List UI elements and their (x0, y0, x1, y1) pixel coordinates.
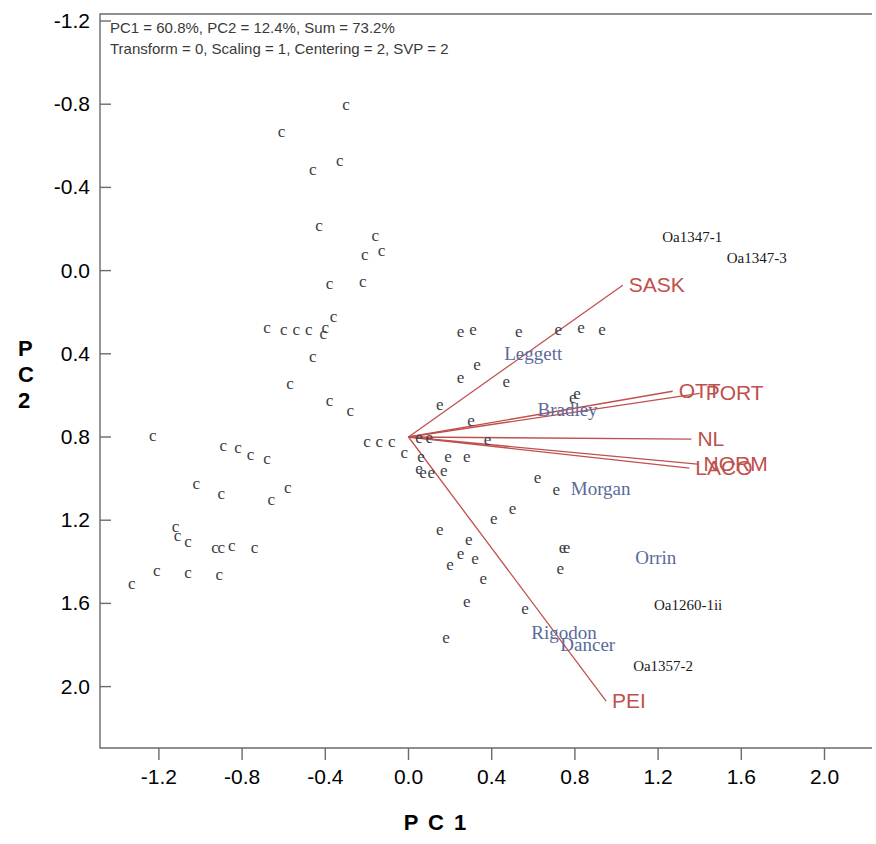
data-point-c: c (220, 436, 228, 455)
vector-label-sask: SASK (629, 273, 685, 296)
data-point-e: e (457, 322, 465, 341)
data-point-c: c (309, 347, 317, 366)
vector-label-pei: PEI (612, 689, 646, 712)
y-axis-title-char-1: C (18, 362, 36, 387)
data-point-c: c (267, 490, 275, 509)
data-point-e: e (554, 320, 562, 339)
data-point-c: c (359, 272, 367, 291)
sample-label-morgan: Morgan (571, 478, 631, 499)
data-point-e: e (480, 569, 488, 588)
y-tick-label: 2.0 (61, 675, 90, 698)
x-axis-ticks: -1.2-0.8-0.40.00.40.81.21.62.0 (141, 748, 839, 788)
data-point-e: e (484, 430, 492, 449)
data-point-c: c (388, 432, 396, 451)
accession-label-oa1357-2: Oa1357-2 (633, 658, 693, 674)
y-tick-label: 0.8 (61, 425, 90, 448)
blue-sample-labels: LeggettBradleyMorganOrrinRigodonDancer (504, 343, 677, 655)
data-point-c: c (326, 274, 334, 293)
vector-label-laco: LACO (695, 456, 752, 479)
data-point-c: c (263, 318, 271, 337)
data-point-c: c (278, 122, 286, 141)
sample-label-dancer: Dancer (560, 634, 616, 655)
data-point-c: c (174, 526, 182, 545)
loading-vector-pei (409, 437, 607, 701)
data-point-c: c (315, 216, 323, 235)
sample-label-bradley: Bradley (537, 399, 598, 420)
data-point-c: c (401, 443, 409, 462)
data-point-e: e (473, 355, 481, 374)
pca-biplot-figure: 2.01.61.20.80.40.0-0.4-0.8-1.2 -1.2-0.8-… (0, 0, 876, 844)
data-point-e: e (509, 499, 517, 518)
data-point-e: e (457, 368, 465, 387)
data-point-c: c (247, 445, 255, 464)
scatter-points: cccccccccccccccccccccccccccccccccccccccc… (128, 95, 606, 646)
data-point-e: e (598, 320, 606, 339)
data-point-c: c (263, 449, 271, 468)
variance-summary-line: PC1 = 60.8%, PC2 = 12.4%, Sum = 73.2% (110, 19, 395, 36)
data-point-c: c (346, 401, 354, 420)
x-tick-label: 1.6 (727, 765, 756, 788)
x-tick-label: -1.2 (141, 765, 177, 788)
data-point-c: c (361, 245, 369, 264)
data-point-e: e (426, 428, 434, 447)
accession-label-oa1347-1: Oa1347-1 (662, 229, 722, 245)
data-point-e: e (515, 322, 523, 341)
x-tick-label: -0.8 (224, 765, 260, 788)
plot-canvas: 2.01.61.20.80.40.0-0.4-0.8-1.2 -1.2-0.8-… (0, 0, 876, 844)
data-point-e: e (440, 461, 448, 480)
y-axis-title-char-0: P (18, 336, 35, 361)
data-point-c: c (342, 95, 350, 114)
data-point-c: c (184, 532, 192, 551)
data-point-e: e (463, 447, 471, 466)
x-axis-title: P C 1 (404, 810, 469, 835)
data-point-e: e (521, 599, 529, 618)
y-tick-label: -0.4 (54, 175, 91, 198)
data-point-e: e (471, 549, 479, 568)
data-point-e: e (534, 468, 542, 487)
data-point-c: c (251, 538, 259, 557)
x-tick-label: 0.4 (477, 765, 507, 788)
data-point-c: c (376, 432, 384, 451)
data-point-e: e (502, 372, 510, 391)
vector-labels: SASKOTTPORTNLNORMLACOPEI (612, 273, 768, 712)
data-point-e: e (469, 320, 477, 339)
vector-label-port: PORT (706, 381, 764, 404)
data-point-e: e (552, 480, 560, 499)
data-point-e: e (463, 592, 471, 611)
data-point-e: e (436, 520, 444, 539)
data-point-c: c (284, 478, 292, 497)
y-axis-title-char-2: 2 (18, 388, 32, 413)
x-tick-label: 1.2 (643, 765, 672, 788)
data-point-c: c (218, 484, 226, 503)
data-point-c: c (330, 307, 338, 326)
y-tick-label: -0.8 (54, 92, 90, 115)
data-point-e: e (428, 463, 436, 482)
data-point-c: c (280, 320, 288, 339)
data-point-c: c (292, 320, 300, 339)
accession-label-oa1347-3: Oa1347-3 (727, 250, 787, 266)
data-point-c: c (184, 563, 192, 582)
y-tick-label: 0.4 (61, 342, 91, 365)
parameters-line: Transform = 0, Scaling = 1, Centering = … (110, 40, 449, 57)
x-tick-label: -0.4 (307, 765, 344, 788)
data-point-c: c (128, 574, 136, 593)
data-point-c: c (322, 318, 330, 337)
loading-vector-norm (409, 437, 698, 464)
loading-vector-nl (409, 437, 692, 439)
data-point-c: c (286, 374, 294, 393)
x-tick-label: 0.8 (560, 765, 589, 788)
y-axis-ticks: 2.01.61.20.80.40.0-0.4-0.8-1.2 (54, 9, 111, 698)
data-point-c: c (218, 538, 226, 557)
data-point-e: e (557, 559, 565, 578)
axis-titles: P C 1 P C 2 (18, 336, 468, 835)
data-point-e: e (465, 530, 473, 549)
data-point-c: c (149, 426, 157, 445)
data-point-c: c (309, 160, 317, 179)
data-point-c: c (326, 391, 334, 410)
x-tick-label: 2.0 (810, 765, 839, 788)
data-point-e: e (442, 628, 450, 647)
data-point-c: c (336, 151, 344, 170)
header-annotation: PC1 = 60.8%, PC2 = 12.4%, Sum = 73.2% Tr… (110, 19, 449, 57)
x-tick-label: 0.0 (394, 765, 423, 788)
vector-label-nl: NL (697, 427, 724, 450)
